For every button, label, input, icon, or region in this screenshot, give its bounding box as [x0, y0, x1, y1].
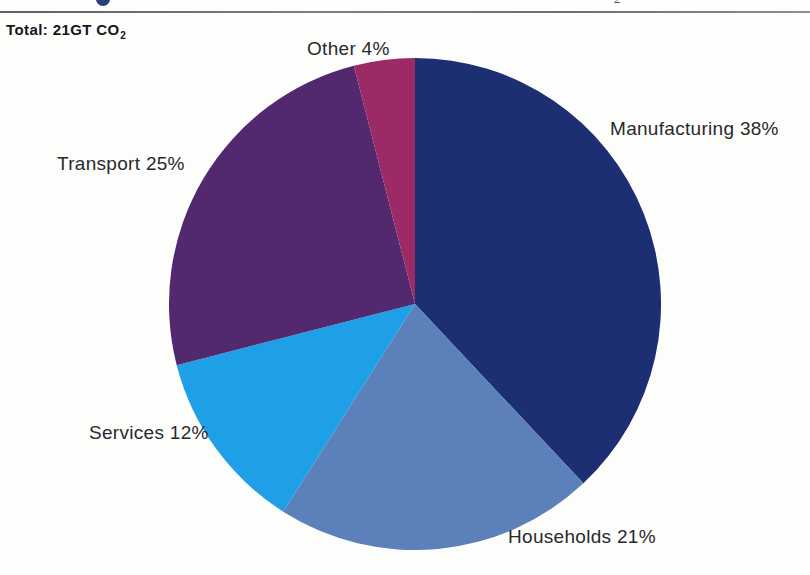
pie-chart — [169, 58, 661, 550]
pie-chart-svg — [169, 58, 661, 550]
pie-label-manufacturing: Manufacturing 38% — [610, 118, 779, 140]
total-caption-text: Total: 21GT CO — [6, 21, 120, 38]
pie-label-other: Other 4% — [307, 38, 390, 60]
pie-label-services: Services 12% — [89, 422, 209, 444]
pie-label-households: Households 21% — [508, 526, 656, 548]
cut-off-subscript-fragment: 2 — [614, 0, 621, 7]
total-caption-subscript: 2 — [120, 30, 126, 41]
pie-slice-group — [169, 58, 661, 550]
cut-off-title-fragment — [96, 0, 110, 6]
pie-label-transport: Transport 25% — [57, 153, 185, 175]
total-caption: Total: 21GT CO2 — [6, 21, 126, 38]
document-page: 2 Total: 21GT CO2 Other 4% Manufacturing… — [0, 0, 810, 575]
header-rule — [0, 11, 810, 13]
